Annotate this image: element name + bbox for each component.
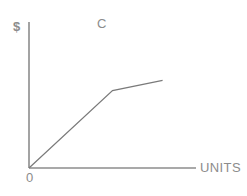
chart-title-label: C (97, 17, 107, 30)
y-axis-label: $ (13, 20, 20, 33)
cost-curve-line (29, 80, 163, 168)
origin-label: 0 (26, 171, 33, 184)
cost-curve-figure: $ C UNITS 0 (0, 0, 247, 196)
x-axis-label: UNITS (200, 161, 241, 174)
